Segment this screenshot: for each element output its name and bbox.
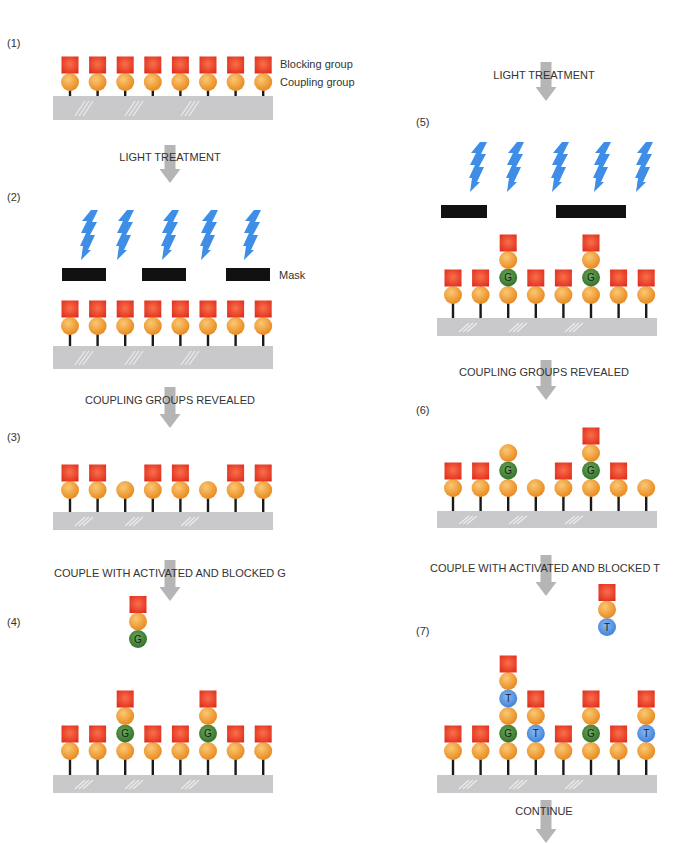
oligo-strand	[254, 726, 272, 776]
oligo-strand	[527, 270, 545, 319]
oligo-strand	[89, 301, 107, 347]
blocking-group	[472, 463, 489, 480]
reagent-t: T	[598, 584, 616, 636]
coupling-group	[116, 707, 134, 725]
oligo-strand: G	[499, 235, 517, 319]
glass-chip-step-3	[53, 512, 273, 530]
blocking-group	[472, 270, 489, 287]
coupling-group	[610, 286, 628, 304]
svg-text:T: T	[604, 622, 610, 633]
oligo-strand	[171, 726, 189, 776]
coupling-group	[227, 317, 245, 335]
coupling-group	[499, 742, 517, 760]
blocking-group	[62, 301, 79, 318]
blocking-group	[117, 691, 134, 708]
svg-text:G: G	[504, 728, 512, 739]
coupling-group	[171, 317, 189, 335]
arrow-light-treatment-2	[536, 62, 557, 101]
blocking-group	[555, 463, 572, 480]
photomask	[62, 268, 106, 281]
svg-text:G: G	[121, 728, 129, 739]
blocking-group	[89, 465, 106, 482]
panel-step-3	[61, 465, 272, 513]
coupling-group	[61, 73, 79, 91]
caption-light-treatment-2: LIGHT TREATMENT	[444, 69, 644, 81]
blocking-group	[500, 235, 517, 252]
blocking-group	[583, 235, 600, 252]
oligo-strand	[171, 465, 189, 513]
blocking-group	[117, 301, 134, 318]
svg-text:T: T	[643, 728, 649, 739]
panel-step-4: GG	[61, 691, 272, 776]
synthesis-diagram: GGGGGGGTGTTGT	[0, 0, 688, 843]
oligo-strand	[472, 270, 490, 319]
blocking-group	[255, 465, 272, 482]
coupling-group	[582, 286, 600, 304]
blocking-group	[89, 57, 106, 74]
photomask	[441, 205, 487, 218]
blocking-group	[172, 726, 189, 743]
blocking-group	[527, 691, 544, 708]
coupling-group	[444, 479, 462, 497]
coupling-group	[637, 742, 655, 760]
oligo-strand	[144, 301, 162, 347]
blocking-group	[89, 301, 106, 318]
coupling-group	[227, 73, 245, 91]
oligo-strand	[199, 481, 217, 512]
coupling-group	[472, 742, 490, 760]
coupling-group	[472, 286, 490, 304]
coupling-group	[254, 481, 272, 499]
coupling-group	[527, 286, 545, 304]
blocking-group	[610, 726, 627, 743]
oligo-strand	[89, 57, 107, 97]
oligo-strand	[61, 465, 79, 513]
oligo-strand: G	[582, 691, 600, 776]
coupling-group	[499, 251, 517, 269]
blocking-group	[445, 463, 462, 480]
coupling-group	[444, 286, 462, 304]
oligo-strand: G	[582, 428, 600, 512]
panel-step-5: GG	[444, 235, 655, 319]
coupling-group	[554, 479, 572, 497]
caption-coupling-revealed-1: COUPLING GROUPS REVEALED	[70, 394, 270, 406]
oligo-strand	[227, 301, 245, 347]
oligo-strand	[89, 465, 107, 513]
caption-continue: CONTINUE	[444, 805, 644, 817]
blocking-group	[200, 691, 217, 708]
oligo-strand	[171, 57, 189, 97]
coupling-group	[610, 479, 628, 497]
oligo-strand	[637, 270, 655, 319]
coupling-group	[527, 742, 545, 760]
light-bolt-icon	[80, 210, 98, 260]
glass-chip-step-7	[437, 775, 657, 793]
glass-chip-step-1	[53, 96, 273, 120]
coupling-group	[582, 707, 600, 725]
light-bolt-icon	[200, 210, 218, 260]
photomask	[142, 268, 186, 281]
glass-chip-step-5	[437, 318, 657, 336]
blocking-group	[583, 428, 600, 445]
blocking-group	[227, 465, 244, 482]
svg-text:G: G	[204, 728, 212, 739]
panel-step-1	[61, 57, 272, 97]
blocking-group	[62, 726, 79, 743]
light-bolt-icon	[161, 210, 179, 260]
svg-text:T: T	[533, 728, 539, 739]
coupling-group	[637, 479, 655, 497]
coupling-group	[61, 317, 79, 335]
blocking-group	[610, 270, 627, 287]
coupling-group	[527, 707, 545, 725]
oligo-strand: G	[582, 235, 600, 319]
coupling-group	[499, 479, 517, 497]
coupling-group	[444, 742, 462, 760]
coupling-group	[254, 742, 272, 760]
oligo-strand: G	[129, 596, 147, 648]
coupling-group	[199, 317, 217, 335]
coupling-group	[144, 481, 162, 499]
oligo-strand	[227, 465, 245, 513]
svg-text:G: G	[587, 465, 595, 476]
oligo-strand: T	[527, 691, 545, 776]
oligo-strand: T	[637, 691, 655, 776]
oligo-strand	[472, 726, 490, 776]
blocking-group	[89, 726, 106, 743]
